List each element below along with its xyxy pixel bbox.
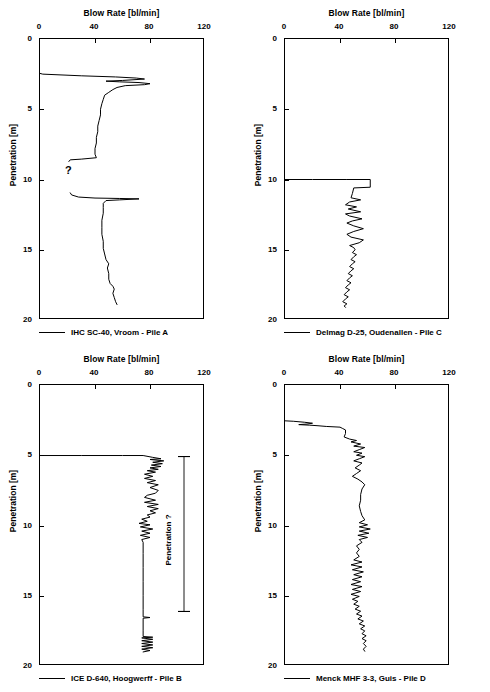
x-tick-40: 40 bbox=[335, 22, 344, 31]
y-tick-10: 10 bbox=[23, 174, 32, 183]
x-tick-labels: 0 40 80 120 bbox=[245, 368, 490, 380]
y-tick-0: 0 bbox=[28, 380, 32, 389]
legend-pile-b: ICE D-640, Hoogwerff - Pile B bbox=[39, 670, 239, 686]
x-tick-80: 80 bbox=[390, 22, 399, 31]
x-tick-40: 40 bbox=[90, 22, 99, 31]
penetration-range-label: Penetration ? bbox=[164, 496, 173, 566]
data-curve-pile-a bbox=[40, 39, 205, 320]
x-axis-title: Blow Rate [bl/min] bbox=[284, 8, 449, 18]
y-tick-labels: 0 5 10 15 20 bbox=[0, 0, 36, 346]
y-tick-20: 20 bbox=[268, 661, 277, 670]
x-tick-labels: 0 40 80 120 bbox=[245, 22, 490, 34]
panel-pile-a: Blow Rate [bl/min] 0 40 80 120 Penetrati… bbox=[0, 0, 245, 346]
x-tick-0: 0 bbox=[37, 368, 41, 377]
plot-area bbox=[284, 384, 449, 665]
legend-line-swatch bbox=[284, 332, 310, 333]
y-tick-labels: 0 5 10 15 20 bbox=[245, 346, 281, 692]
y-tick-10: 10 bbox=[268, 520, 277, 529]
legend-label: ICE D-640, Hoogwerff - Pile B bbox=[71, 674, 182, 683]
y-tick-20: 20 bbox=[268, 315, 277, 324]
y-tick-20: 20 bbox=[23, 661, 32, 670]
plot-area: Penetration ? bbox=[39, 384, 204, 665]
legend-pile-a: IHC SC-40, Vroom - Pile A bbox=[39, 324, 239, 340]
plot-area bbox=[284, 38, 449, 319]
legend-label: Menck MHF 3-3, Guis - Pile D bbox=[316, 674, 426, 683]
y-tick-15: 15 bbox=[23, 590, 32, 599]
x-axis-title: Blow Rate [bl/min] bbox=[284, 354, 449, 364]
y-tick-labels: 0 5 10 15 20 bbox=[245, 0, 281, 346]
x-axis-title: Blow Rate [bl/min] bbox=[39, 354, 204, 364]
legend-pile-c: Delmag D-25, Oudenallen - Pile C bbox=[284, 324, 484, 340]
y-tick-10: 10 bbox=[268, 174, 277, 183]
x-axis-title: Blow Rate [bl/min] bbox=[39, 8, 204, 18]
blow-rate-penetration-figure: Blow Rate [bl/min] 0 40 80 120 Penetrati… bbox=[0, 0, 490, 692]
x-tick-120: 120 bbox=[442, 22, 455, 31]
x-tick-40: 40 bbox=[335, 368, 344, 377]
y-tick-5: 5 bbox=[28, 104, 32, 113]
y-tick-15: 15 bbox=[268, 590, 277, 599]
x-tick-labels: 0 40 80 120 bbox=[0, 22, 245, 34]
legend-pile-d: Menck MHF 3-3, Guis - Pile D bbox=[284, 670, 484, 686]
x-tick-80: 80 bbox=[145, 368, 154, 377]
x-tick-120: 120 bbox=[197, 22, 210, 31]
legend-label: Delmag D-25, Oudenallen - Pile C bbox=[316, 328, 442, 337]
y-tick-5: 5 bbox=[28, 450, 32, 459]
y-tick-5: 5 bbox=[273, 104, 277, 113]
x-tick-labels: 0 40 80 120 bbox=[0, 368, 245, 380]
y-tick-0: 0 bbox=[273, 380, 277, 389]
legend-label: IHC SC-40, Vroom - Pile A bbox=[71, 328, 168, 337]
y-tick-labels: 0 5 10 15 20 bbox=[0, 346, 36, 692]
panel-pile-b: Blow Rate [bl/min] 0 40 80 120 Penetrati… bbox=[0, 346, 245, 692]
y-tick-15: 15 bbox=[23, 244, 32, 253]
penetration-range-bar bbox=[177, 456, 191, 612]
plot-area: ? bbox=[39, 38, 204, 319]
legend-line-swatch bbox=[39, 678, 65, 679]
x-tick-120: 120 bbox=[442, 368, 455, 377]
question-annotation: ? bbox=[65, 164, 72, 176]
legend-line-swatch bbox=[39, 332, 65, 333]
data-curve-pile-c bbox=[285, 39, 450, 320]
panel-pile-c: Blow Rate [bl/min] 0 40 80 120 Penetrati… bbox=[245, 0, 490, 346]
y-tick-0: 0 bbox=[28, 34, 32, 43]
x-tick-40: 40 bbox=[90, 368, 99, 377]
y-tick-20: 20 bbox=[23, 315, 32, 324]
data-curve-pile-d bbox=[285, 385, 450, 666]
y-tick-10: 10 bbox=[23, 520, 32, 529]
x-tick-80: 80 bbox=[145, 22, 154, 31]
legend-line-swatch bbox=[284, 678, 310, 679]
x-tick-0: 0 bbox=[282, 368, 286, 377]
y-tick-5: 5 bbox=[273, 450, 277, 459]
y-tick-0: 0 bbox=[273, 34, 277, 43]
x-tick-0: 0 bbox=[37, 22, 41, 31]
panel-pile-d: Blow Rate [bl/min] 0 40 80 120 Penetrati… bbox=[245, 346, 490, 692]
x-tick-0: 0 bbox=[282, 22, 286, 31]
y-tick-15: 15 bbox=[268, 244, 277, 253]
x-tick-80: 80 bbox=[390, 368, 399, 377]
x-tick-120: 120 bbox=[197, 368, 210, 377]
